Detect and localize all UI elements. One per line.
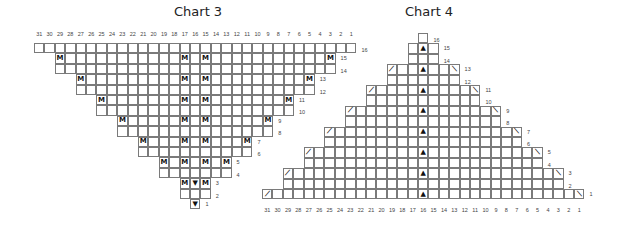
column-number: 22 [356,207,366,213]
chart-cell [294,74,304,84]
chart-cell [439,106,449,116]
chart-cell [408,75,418,85]
chart-cell [491,127,501,137]
chart-cell [397,85,407,95]
chart-cell [117,85,127,95]
chart-cell [345,137,355,147]
chart-cell [408,85,418,95]
stitch-symbol-left-decrease-icon: ⟋ [283,168,293,178]
stitch-symbol-make-one-icon: M [325,53,335,63]
row-number: 4 [237,172,240,178]
chart-cell [128,126,138,136]
chart-cell [460,158,470,168]
chart-cell [470,127,480,137]
stitch-symbol-make-one-icon: M [180,116,190,126]
row-number: 13 [465,66,471,72]
chart-cell [418,75,428,85]
row-number: 12 [465,79,471,85]
column-number: 12 [232,31,242,37]
column-number: 10 [480,207,490,213]
chart-cell [242,53,252,63]
chart-cell [284,53,294,63]
column-number: 9 [263,31,273,37]
stitch-symbol-central-double-decrease-icon: ▲ [418,127,428,137]
chart-cell [138,64,148,74]
chart-cell [408,64,418,74]
chart-cell [324,158,334,168]
chart-cell [512,137,522,147]
chart-cell [480,116,490,126]
column-number: 16 [418,207,428,213]
chart-cell [200,64,210,74]
chart-cell [252,126,262,136]
chart-cell [356,127,366,137]
chart-cell [491,137,501,147]
chart-cell [491,116,501,126]
chart-cell [428,168,438,178]
chart-3-title: Chart 3 [174,4,222,19]
row-number: 6 [527,141,530,147]
column-number: 23 [345,207,355,213]
chart-cell [148,126,158,136]
chart-cell [324,189,334,199]
chart-cell [232,95,242,105]
chart-cell [387,189,397,199]
chart-cell [190,43,200,53]
chart-cell [190,168,200,178]
chart-cell [408,179,418,189]
stitch-symbol-make-one-icon: M [200,157,210,167]
chart-cell [470,168,480,178]
chart-cell [65,53,75,63]
chart-cell [501,137,511,147]
chart-cell [335,137,345,147]
stitch-symbol-right-decrease-icon: ⟍ [449,64,459,74]
row-number: 15 [444,45,450,51]
chart-cell [408,137,418,147]
chart-cell [314,147,324,157]
chart-cell [242,74,252,84]
chart-cell [148,85,158,95]
chart-cell [501,147,511,157]
chart-cell [387,147,397,157]
chart-cell [252,85,262,95]
chart-cell [522,168,532,178]
column-number: 25 [324,207,334,213]
column-number: 22 [128,31,138,37]
chart-cell [148,137,158,147]
chart-cell [190,157,200,167]
chart-cell [138,116,148,126]
chart-cell [272,189,282,199]
chart-cell [180,105,190,115]
chart-cell [501,168,511,178]
chart-cell [418,137,428,147]
chart-cell [480,137,490,147]
chart-cell [543,168,553,178]
chart-cell [304,85,314,95]
column-number: 7 [512,207,522,213]
row-number: 11 [299,97,305,103]
column-number: 30 [44,31,54,37]
chart-cell [294,53,304,63]
stitch-symbol-make-one-icon: M [96,95,106,105]
chart-cell [324,147,334,157]
chart-cell [190,64,200,74]
column-number: 26 [314,207,324,213]
chart-cell [273,105,283,115]
chart-cell [159,53,169,63]
stitch-symbol-make-one-icon: M [242,137,252,147]
chart-cell [470,158,480,168]
chart-cell [387,116,397,126]
chart-cell [252,64,262,74]
chart-cell [221,85,231,95]
row-number: 16 [433,37,439,43]
chart-cell [169,126,179,136]
chart-cell [263,53,273,63]
chart-cell [408,43,418,53]
chart-cell [263,64,273,74]
chart-cell [159,105,169,115]
stitch-symbol-make-one-icon: M [200,95,210,105]
chart-cell [449,106,459,116]
chart-cell [418,54,428,64]
chart-cell [335,127,345,137]
chart-cell [221,74,231,84]
